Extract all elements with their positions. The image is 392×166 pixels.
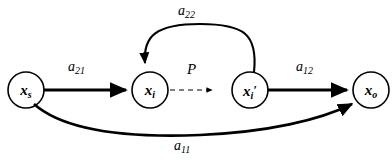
diagram-canvas: xs xi xi′ xo a21 a22 a12 a11 P	[0, 0, 392, 166]
node-circle-xi	[132, 72, 168, 108]
edge-a11-arc	[34, 104, 352, 136]
edge-a22-arc	[145, 24, 255, 72]
node-circle-xi-prime	[232, 72, 268, 108]
signal-flow-graph	[0, 0, 392, 166]
node-circle-xo	[353, 72, 389, 108]
node-circle-xs	[8, 72, 44, 108]
